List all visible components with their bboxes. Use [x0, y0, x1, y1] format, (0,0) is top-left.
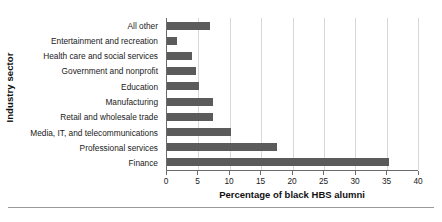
x-tick-label: 20 — [287, 176, 296, 186]
bar-series — [167, 18, 418, 170]
y-axis-title-text: Industry sector — [4, 52, 15, 122]
category-axis-labels: All otherEntertainment and recreationHea… — [18, 18, 162, 171]
x-axis-tick-labels: 0510152025303540 — [166, 176, 418, 188]
x-tick-label: 0 — [164, 176, 169, 186]
bar — [167, 128, 231, 136]
bar — [167, 37, 177, 45]
category-label: Health care and social services — [18, 49, 162, 64]
x-tick-label: 35 — [382, 176, 391, 186]
bar — [167, 98, 213, 106]
bar-row — [167, 48, 418, 63]
category-label: Finance — [18, 156, 162, 171]
bar — [167, 143, 277, 151]
y-axis-title: Industry sector — [0, 0, 18, 175]
bar — [167, 113, 213, 121]
category-label: Education — [18, 79, 162, 94]
x-tickmark — [197, 171, 198, 175]
category-label: Professional services — [18, 140, 162, 155]
x-tickmark — [292, 171, 293, 175]
bar-row — [167, 140, 418, 155]
x-tickmark — [418, 171, 419, 175]
bar-row — [167, 155, 418, 170]
bar-chart: Industry sector All otherEntertainment a… — [0, 0, 442, 222]
x-tick-label: 10 — [224, 176, 233, 186]
gridline — [418, 18, 419, 170]
x-tick-label: 15 — [256, 176, 265, 186]
category-label: Government and nonprofit — [18, 64, 162, 79]
category-label: Entertainment and recreation — [18, 33, 162, 48]
x-tickmark — [323, 171, 324, 175]
bar — [167, 52, 192, 60]
x-tickmark — [166, 171, 167, 175]
category-label: All other — [18, 18, 162, 33]
x-axis-title: Percentage of black HBS alumni — [166, 189, 418, 200]
category-label: Media, IT, and telecommunications — [18, 125, 162, 140]
x-tick-label: 40 — [413, 176, 422, 186]
bar-row — [167, 33, 418, 48]
bar — [167, 22, 210, 30]
bar-row — [167, 109, 418, 124]
bar-row — [167, 18, 418, 33]
x-tick-label: 30 — [350, 176, 359, 186]
bar-row — [167, 64, 418, 79]
category-label: Retail and wholesale trade — [18, 110, 162, 125]
bar-row — [167, 79, 418, 94]
bar — [167, 82, 199, 90]
bar — [167, 158, 389, 166]
category-label: Manufacturing — [18, 94, 162, 109]
x-tick-label: 5 — [195, 176, 200, 186]
x-tickmark — [355, 171, 356, 175]
bar-row — [167, 124, 418, 139]
bar-row — [167, 94, 418, 109]
plot-area — [166, 18, 418, 171]
x-tickmark — [229, 171, 230, 175]
x-tick-label: 25 — [319, 176, 328, 186]
footer-divider — [8, 207, 434, 208]
x-tickmark — [386, 171, 387, 175]
x-tickmark — [260, 171, 261, 175]
bar — [167, 67, 196, 75]
